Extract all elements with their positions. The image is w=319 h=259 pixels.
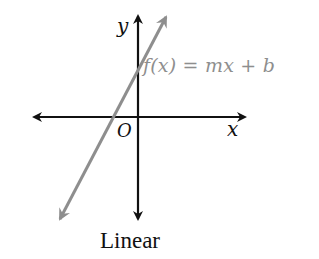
linear-function-diagram: y x O f(x) = mx + b Linear [0, 0, 319, 259]
figure-caption: Linear [100, 228, 160, 254]
x-axis-label: x [227, 117, 238, 141]
y-axis-label: y [117, 14, 128, 38]
function-line-lower [60, 118, 113, 219]
function-label: f(x) = mx + b [143, 54, 275, 76]
coordinate-plane [0, 0, 319, 259]
origin-label: O [117, 120, 132, 141]
